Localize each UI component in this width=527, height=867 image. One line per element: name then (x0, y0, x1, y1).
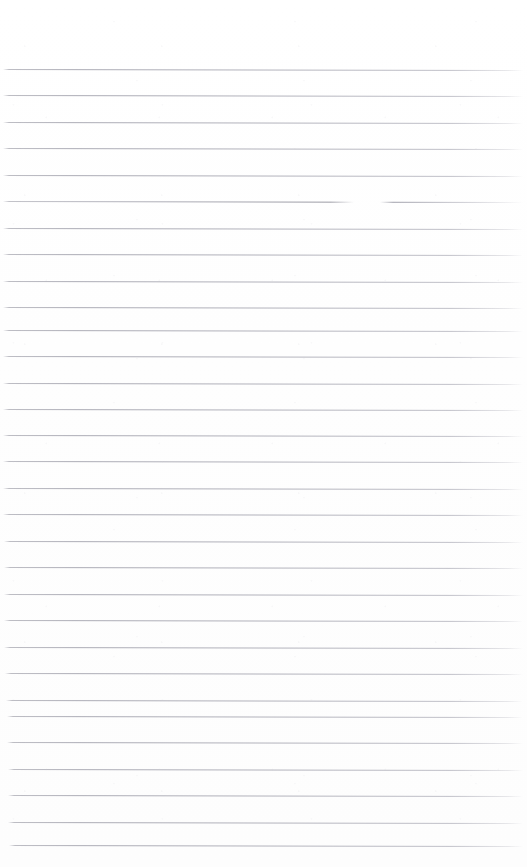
rule-line (3, 122, 523, 124)
rule-line (3, 356, 523, 358)
rule-line (8, 822, 523, 824)
rule-line (4, 620, 523, 622)
rule-line (3, 461, 523, 463)
rule-line (3, 383, 523, 385)
rule-line (4, 647, 523, 649)
rule-line (9, 845, 523, 847)
rule-line (3, 307, 523, 309)
scanned-page (0, 0, 527, 867)
rule-line (3, 409, 523, 411)
rule-line (3, 488, 523, 490)
rule-line (3, 435, 523, 437)
rule-line (3, 228, 523, 230)
rule-line (3, 175, 523, 177)
rule-line (3, 201, 523, 203)
rule-line (3, 95, 523, 97)
rule-line (5, 673, 523, 675)
rule-line (8, 795, 523, 797)
rule-line (3, 330, 523, 332)
rule-line (3, 281, 523, 283)
ruled-lines-group (0, 0, 527, 867)
rule-line (4, 541, 523, 543)
rule-line (3, 254, 523, 256)
rule-line (4, 567, 523, 569)
rule-line (7, 716, 523, 718)
rule-line (4, 594, 523, 596)
rule-line (3, 148, 523, 150)
rule-line (3, 514, 523, 516)
rule-line (7, 742, 523, 744)
rule-line (8, 769, 523, 771)
rule-line (6, 700, 523, 702)
rule-line (3, 69, 523, 71)
